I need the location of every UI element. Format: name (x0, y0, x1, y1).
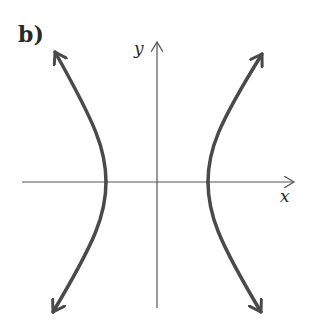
hyperbola-right-branch-lower (208, 182, 261, 312)
hyperbola-figure: b) y x (0, 0, 310, 325)
graph-canvas (0, 0, 310, 325)
x-axis-label: x (280, 186, 290, 206)
hyperbola-right-branch-upper (208, 54, 262, 182)
part-label: b) (18, 21, 44, 47)
hyperbola-left-branch-upper (55, 52, 106, 182)
hyperbola-left-branch-lower (53, 182, 106, 312)
y-axis-label: y (134, 38, 144, 58)
